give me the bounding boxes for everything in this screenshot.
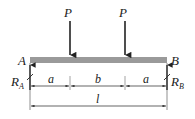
point-label-b: B: [171, 53, 179, 68]
support-a: A RA: [10, 53, 33, 110]
dim-label-a2: a: [143, 72, 149, 86]
reaction-label-b: RB: [170, 74, 184, 91]
dimension-total: l: [31, 92, 166, 106]
dim-label-l: l: [96, 92, 100, 106]
point-label-a: A: [17, 53, 26, 68]
dim-label-b: b: [95, 72, 101, 86]
dim-label-a1: a: [48, 72, 54, 86]
reaction-label-a: RA: [10, 74, 24, 91]
beam: [30, 57, 167, 63]
beam-diagram: P P A RA B RB a b a l: [0, 0, 195, 119]
load-label: P: [63, 5, 72, 20]
load-p-right: P: [118, 5, 127, 55]
load-label: P: [118, 5, 127, 20]
load-p-left: P: [63, 5, 72, 55]
dimension-segments: a b a: [31, 72, 166, 86]
